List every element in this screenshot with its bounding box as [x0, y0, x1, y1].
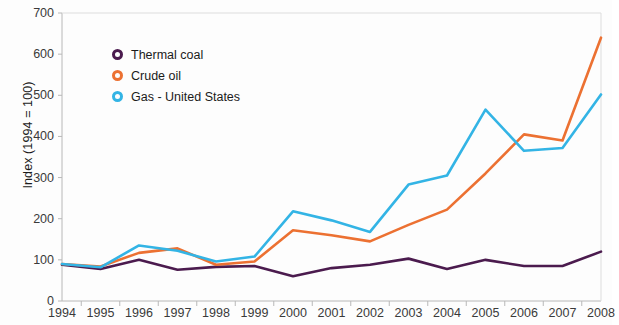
x-tick-label: 1999	[233, 307, 277, 320]
legend-item[interactable]: Thermal coal	[112, 44, 240, 65]
x-tick-label: 1995	[79, 307, 123, 320]
chart-legend: Thermal coalCrude oilGas - United States	[112, 44, 240, 107]
x-tick-label: 2004	[425, 307, 469, 320]
legend-item[interactable]: Crude oil	[112, 65, 240, 86]
y-axis-ticks	[58, 13, 62, 301]
legend-item-label: Thermal coal	[131, 48, 203, 62]
legend-item-label: Crude oil	[131, 69, 181, 83]
series-line	[62, 94, 601, 267]
legend-item[interactable]: Gas - United States	[112, 86, 240, 107]
legend-marker-icon	[112, 91, 123, 102]
x-tick-label: 1994	[40, 307, 84, 320]
legend-marker-icon	[112, 49, 123, 60]
x-tick-label: 2005	[464, 307, 508, 320]
x-tick-label: 2001	[310, 307, 354, 320]
x-tick-label: 1997	[156, 307, 200, 320]
series-line	[62, 252, 601, 277]
x-tick-label: 1996	[117, 307, 161, 320]
x-tick-label: 2006	[502, 307, 546, 320]
x-tick-label: 2002	[348, 307, 392, 320]
x-axis-tick-labels: 1994199519961997199819992000200120022003…	[62, 303, 600, 325]
legend-marker-icon	[112, 70, 123, 81]
x-tick-label: 2007	[541, 307, 585, 320]
x-tick-label: 1998	[194, 307, 238, 320]
x-tick-label: 2003	[387, 307, 431, 320]
x-tick-label: 2000	[271, 307, 315, 320]
legend-item-label: Gas - United States	[131, 90, 240, 104]
x-tick-label: 2008	[579, 307, 619, 320]
